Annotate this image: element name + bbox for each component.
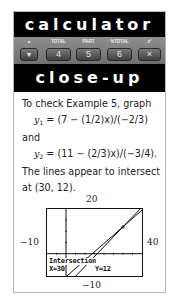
key-label-x-squared: x²: [138, 39, 161, 44]
graph-screen: Intersection X=30 Y=12: [46, 208, 143, 277]
down-arrow-icon: ▼: [26, 51, 33, 58]
key-label-total: TOTAL: [46, 39, 71, 44]
graph-ymin-label: −10: [82, 280, 101, 290]
intersection-title: Intersection: [49, 258, 96, 265]
connector-and: and: [22, 130, 164, 146]
intersection-y-value: Y=12: [95, 266, 111, 273]
key-5: 5: [76, 48, 101, 61]
multiply-icon: ×: [147, 49, 152, 59]
calculator-title: calculator: [14, 12, 165, 37]
graph-xmin-label: −10: [20, 237, 39, 247]
instructions-text: To check Example 5, graph y1 = (7 − (1/2…: [22, 96, 164, 196]
key-label-percent-total: %TOTAL: [107, 39, 132, 44]
instruction-line-1: To check Example 5, graph: [22, 96, 164, 112]
instruction-line-5: The lines appear to intersect: [22, 164, 164, 180]
key-4: 4: [46, 48, 71, 61]
graph-ymax-label: 20: [86, 194, 97, 204]
graph-xmax-label: 40: [147, 237, 158, 247]
key-6: 6: [107, 48, 132, 61]
closeup-subtitle: close-up: [14, 64, 165, 92]
key-label-part: PART: [76, 39, 101, 44]
intersection-x-value: X=30: [49, 266, 65, 273]
equation-y1: y1 = (7 − (1/2)x)/(−2/3): [22, 112, 164, 131]
down-arrow-key: ▼: [20, 48, 38, 61]
equation-y2: y2 = (11 − (2/3)x)/(−3/4).: [22, 146, 164, 165]
calculator-key-row: ▲ ▼ TOTAL 4 PART 5 %TOTAL 6 x² ×: [14, 37, 165, 64]
multiply-key: ×: [138, 48, 161, 61]
key-label-up: ▲: [20, 39, 38, 44]
calculator-closeup-panel: calculator ▲ ▼ TOTAL 4 PART 5 %TOTAL 6 x…: [13, 11, 166, 293]
